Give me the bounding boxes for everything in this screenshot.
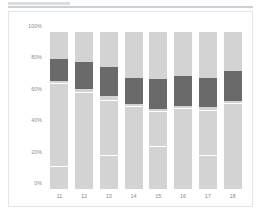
bar-13-divider [100, 155, 118, 156]
bar-17-divider [199, 155, 217, 156]
bar-11-divider [50, 83, 68, 84]
x-axis-tick-13: 13 [100, 193, 118, 199]
bar-11-divider [50, 166, 68, 167]
x-axis-tick-15: 15 [149, 193, 167, 199]
bar-18-segment-base [224, 32, 242, 189]
chart-panel: 0%20%40%60%80%100% 1112131415161718 [8, 11, 253, 207]
x-axis-tick-17: 17 [199, 193, 217, 199]
bar-12[interactable]: 12 [75, 32, 93, 189]
bar-13[interactable]: 13 [100, 32, 118, 189]
bar-14-divider [125, 106, 143, 107]
top-rule-long [8, 6, 253, 8]
y-axis-tick-100: 100% [28, 23, 42, 29]
bar-15-divider [149, 111, 167, 112]
bar-16-divider [174, 108, 192, 109]
bar-16[interactable]: 16 [174, 32, 192, 189]
bar-14[interactable]: 14 [125, 32, 143, 189]
bar-16-segment-base [174, 32, 192, 189]
top-rule-short [8, 2, 70, 5]
y-axis-tick-0: 0% [34, 180, 42, 186]
bar-17-segment-highlight [199, 78, 217, 108]
bar-17-segment-base [199, 32, 217, 189]
x-axis-tick-12: 12 [75, 193, 93, 199]
x-axis-tick-16: 16 [174, 193, 192, 199]
bar-14-segment-highlight [125, 78, 143, 105]
bar-17[interactable]: 17 [199, 32, 217, 189]
bar-15[interactable]: 15 [149, 32, 167, 189]
x-axis-tick-14: 14 [125, 193, 143, 199]
x-axis-tick-18: 18 [224, 193, 242, 199]
y-axis-tick-40: 40% [31, 117, 42, 123]
bar-18[interactable]: 18 [224, 32, 242, 189]
bar-16-segment-highlight [174, 76, 192, 106]
bar-12-divider [75, 92, 93, 93]
bar-14-segment-base [125, 32, 143, 189]
x-axis-tick-11: 11 [50, 193, 68, 199]
plot-area: 0%20%40%60%80%100% 1112131415161718 [47, 32, 245, 189]
bar-13-segment-base [100, 32, 118, 189]
bar-18-divider [224, 103, 242, 104]
y-axis-tick-60: 60% [31, 86, 42, 92]
y-axis-tick-20: 20% [31, 149, 42, 155]
bar-13-segment-highlight [100, 67, 118, 97]
bar-17-divider [199, 110, 217, 111]
bar-12-segment-highlight [75, 62, 93, 89]
bar-12-segment-base [75, 32, 93, 189]
bar-18-segment-highlight [224, 71, 242, 101]
bar-11-segment-highlight [50, 59, 68, 81]
y-axis-tick-80: 80% [31, 54, 42, 60]
bar-13-divider [100, 100, 118, 101]
bar-11[interactable]: 11 [50, 32, 68, 189]
bar-15-divider [149, 146, 167, 147]
bar-15-segment-highlight [149, 79, 167, 109]
